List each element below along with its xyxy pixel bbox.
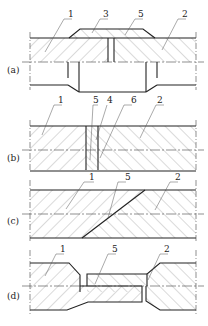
part-2-region [114, 38, 196, 62]
panel-d: 1 5 2 (d) [7, 244, 204, 316]
callout-1: 1 [60, 244, 66, 254]
callout-1: 1 [89, 172, 95, 182]
callout-1: 1 [58, 95, 64, 105]
panel-c: 1 5 2 (c) [7, 172, 204, 242]
panel-b: 1 5 4 6 2 (b) [7, 95, 204, 170]
callout-5: 5 [125, 172, 131, 182]
panel-label-d: (d) [7, 291, 20, 301]
callout-2: 2 [182, 9, 188, 19]
panel-label-c: (c) [7, 216, 19, 226]
callout-2: 2 [164, 244, 170, 254]
callout-5: 5 [112, 244, 118, 254]
callout-2: 2 [157, 95, 163, 105]
panel-label-b: (b) [7, 153, 20, 163]
callout-5: 5 [93, 95, 99, 105]
callout-5: 5 [138, 9, 144, 19]
callout-4: 4 [107, 95, 113, 105]
panel-label-a: (a) [7, 65, 19, 75]
cover-plate-region [69, 29, 155, 38]
part-1-region [30, 38, 108, 62]
callout-2: 2 [175, 172, 181, 182]
diagram-canvas: 1 3 5 2 (a) 1 5 4 6 2 (b) [0, 0, 208, 326]
panel-a: 1 3 5 2 (a) [7, 9, 204, 92]
callout-1: 1 [68, 9, 74, 19]
callout-3: 3 [103, 9, 109, 19]
callout-6: 6 [131, 95, 137, 105]
